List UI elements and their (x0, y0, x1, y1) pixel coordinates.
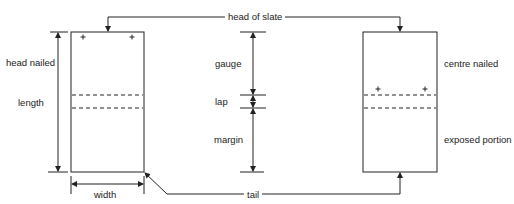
slate-centre-nailed (363, 32, 437, 172)
gauge-lap-margin-dimension (240, 32, 266, 172)
slate-diagram (0, 0, 514, 204)
label-head-nailed: head nailed (6, 57, 55, 68)
nail-marks-centre (376, 87, 428, 92)
label-tail: tail (244, 189, 262, 200)
label-lap: lap (215, 96, 228, 107)
slate-head-nailed (71, 32, 144, 172)
tail-leader (145, 173, 400, 194)
label-gauge: gauge (215, 58, 241, 69)
label-centre-nailed: centre nailed (444, 58, 498, 69)
nail-marks-head (81, 35, 135, 40)
length-dimension (48, 32, 68, 172)
label-width: width (94, 189, 116, 200)
label-exposed-portion: exposed portion (444, 134, 512, 145)
label-margin: margin (214, 134, 243, 145)
label-head-of-slate: head of slate (225, 11, 285, 22)
label-length: length (18, 97, 44, 108)
